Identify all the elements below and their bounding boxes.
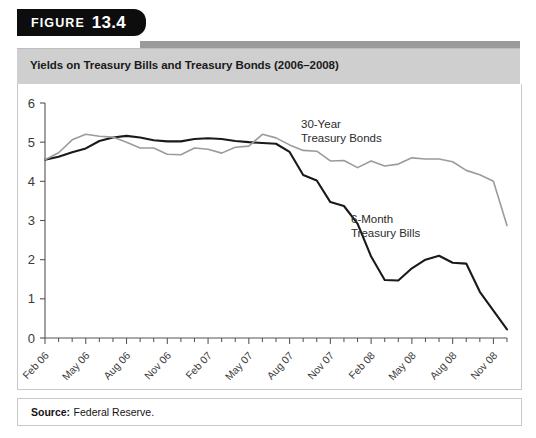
y-tick-label: 1	[28, 291, 35, 306]
figure-tab-number: 13.4	[92, 13, 126, 33]
series-line-bonds	[45, 134, 507, 225]
svg-text:Nov 06: Nov 06	[142, 349, 174, 382]
line-chart: 0123456Feb 06May 06Aug 06Nov 06Feb 07May…	[18, 84, 519, 388]
plot-panel: 0123456Feb 06May 06Aug 06Nov 06Feb 07May…	[17, 84, 522, 390]
series-annotation-line1: 6-Month	[351, 213, 393, 225]
source-value: Federal Reserve.	[74, 406, 155, 418]
x-tick-label: Nov 07	[305, 349, 337, 382]
y-tick-label: 6	[28, 96, 35, 111]
svg-text:May 08: May 08	[386, 349, 418, 382]
series-annotation-bills: 6-MonthTreasury Bills	[351, 213, 420, 239]
svg-text:Aug 06: Aug 06	[101, 349, 133, 382]
x-tick-label: Aug 06	[101, 349, 133, 382]
figure-tab: FIGURE 13.4	[17, 9, 146, 36]
svg-text:Nov 07: Nov 07	[305, 349, 337, 382]
figure-title-band: Yields on Treasury Bills and Treasury Bo…	[17, 48, 520, 85]
svg-text:Aug 08: Aug 08	[427, 349, 459, 382]
y-tick-label: 0	[28, 331, 35, 346]
y-tick-label: 5	[28, 135, 35, 150]
x-tick-label: Feb 07	[183, 349, 214, 381]
svg-text:May 06: May 06	[59, 349, 91, 382]
x-tick-label: Feb 06	[20, 349, 51, 381]
svg-text:May 07: May 07	[223, 349, 255, 382]
header-strip	[140, 41, 520, 48]
x-tick-label: May 07	[223, 349, 255, 382]
svg-text:Nov 08: Nov 08	[468, 349, 500, 382]
source-label: Source:	[31, 406, 70, 418]
series-annotation-bonds: 30-YearTreasury Bonds	[301, 118, 382, 144]
x-tick-label: May 08	[386, 349, 418, 382]
svg-text:Feb 08: Feb 08	[346, 349, 377, 381]
svg-text:Feb 07: Feb 07	[183, 349, 214, 381]
series-annotation-line1: 30-Year	[301, 118, 341, 130]
figure-tab-word: FIGURE	[31, 16, 85, 30]
y-tick-label: 3	[28, 213, 35, 228]
figure-container: FIGURE 13.4 Yields on Treasury Bills and…	[0, 0, 536, 438]
x-tick-label: Aug 07	[264, 349, 296, 382]
series-line-bills	[45, 136, 507, 329]
x-tick-label: May 06	[59, 349, 91, 382]
svg-text:Aug 07: Aug 07	[264, 349, 296, 382]
x-tick-label: Nov 08	[468, 349, 500, 382]
figure-title: Yields on Treasury Bills and Treasury Bo…	[30, 59, 339, 71]
svg-text:Feb 06: Feb 06	[20, 349, 51, 381]
y-tick-label: 2	[28, 252, 35, 267]
series-annotation-line2: Treasury Bonds	[301, 132, 382, 144]
x-tick-label: Aug 08	[427, 349, 459, 382]
y-tick-label: 4	[28, 174, 35, 189]
source-bar: Source: Federal Reserve.	[17, 398, 522, 426]
x-tick-label: Feb 08	[346, 349, 377, 381]
x-tick-label: Nov 06	[142, 349, 174, 382]
series-annotation-line2: Treasury Bills	[351, 227, 420, 239]
